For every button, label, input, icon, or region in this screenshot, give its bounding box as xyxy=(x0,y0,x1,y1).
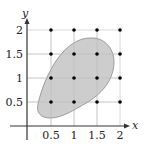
y-axis-label: y xyxy=(21,7,29,20)
x-tick-2: 2 xyxy=(117,129,124,142)
y-tick-0-5: 0.5 xyxy=(6,96,24,109)
x-tick-0-5: 0.5 xyxy=(42,129,60,142)
x-axis-label: x xyxy=(132,119,139,132)
y-tick-1: 1 xyxy=(16,72,23,85)
x-tick-1: 1 xyxy=(71,129,78,142)
y-tick-2: 2 xyxy=(16,24,23,37)
y-tick-1-5: 1.5 xyxy=(6,48,24,61)
diagram: x y 0.5 1 1.5 2 0.5 1 1.5 2 xyxy=(0,0,144,150)
x-axis-arrow-icon xyxy=(124,124,130,129)
x-tick-1-5: 1.5 xyxy=(88,129,106,142)
